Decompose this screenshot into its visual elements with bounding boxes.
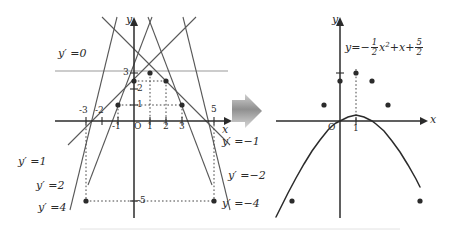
tangent-slope-4 <box>70 17 117 210</box>
point-0-2p5 <box>131 78 136 83</box>
left-y-axis-label: y <box>126 14 132 25</box>
left-ytick-3: 3 <box>123 68 129 77</box>
label-slope-two: y′ =2 <box>36 180 64 191</box>
right-x-axis-arrowhead <box>420 117 428 125</box>
left-xtick-1: 1 <box>147 122 153 131</box>
point-2-2p5 <box>163 78 168 83</box>
left-xtick-2: 2 <box>163 122 169 131</box>
tangent-lines <box>68 17 230 210</box>
rpoint-5-neg5 <box>417 198 422 203</box>
eqn-coef-den: 2 <box>371 48 378 57</box>
eqn-plus-2: + <box>405 41 414 54</box>
rpoint-2-2p5 <box>369 78 374 83</box>
left-ytick-1: 1 <box>137 100 143 109</box>
point-1-3 <box>147 70 152 75</box>
label-slope-one: y′ =1 <box>18 156 46 167</box>
eqn-const-den: 2 <box>415 48 422 57</box>
eqn-plus-1: + <box>390 41 399 54</box>
figure-canvas: x y O -3 -2 -1 1 2 3 5 3 2 1 -5 y′ =0 y′… <box>0 0 463 234</box>
right-xtick-1: 1 <box>353 124 359 133</box>
tangent-slope-neg4 <box>183 17 230 210</box>
left-xtick-neg2: -2 <box>95 106 104 115</box>
right-curve-points <box>289 70 422 203</box>
eqn-sign: − <box>360 41 369 54</box>
label-slope-four: y′ =4 <box>38 202 66 213</box>
left-xtick-3: 3 <box>179 122 185 131</box>
parabola-curve <box>276 115 420 217</box>
label-slope-zero: y′ =0 <box>58 48 86 59</box>
rpoint-1-3 <box>353 70 358 75</box>
left-xtick-neg3: -3 <box>79 106 88 115</box>
left-xtick-5: 5 <box>211 105 217 114</box>
parabola-equation: y=−12x2+x+52 <box>345 38 424 57</box>
transform-arrow <box>232 94 262 128</box>
eqn-coef-fraction: 12 <box>371 38 378 57</box>
tangent-slope-neg2 <box>148 17 212 185</box>
right-y-axis-label: y <box>332 14 338 25</box>
left-x-axis-label: x <box>222 124 228 135</box>
label-slope-neg-one: y′ =−1 <box>222 136 260 147</box>
point-5-neg5 <box>211 198 216 203</box>
left-ytick-2: 2 <box>137 84 143 93</box>
rpoint-neg3-neg5 <box>289 198 294 203</box>
point-neg1-1 <box>115 102 120 107</box>
label-slope-neg-four: y′ =−4 <box>222 198 260 209</box>
point-neg3-neg5 <box>83 198 88 203</box>
left-origin-label: O <box>134 122 141 131</box>
eqn-const-fraction: 52 <box>415 38 422 57</box>
label-slope-neg-two: y′ =−2 <box>228 170 266 181</box>
left-xtick-neg1: -1 <box>112 122 121 131</box>
right-x-axis-label: x <box>430 114 436 125</box>
left-ytick-neg5: -5 <box>137 196 146 205</box>
rpoint-3-1 <box>385 102 390 107</box>
point-3-1 <box>179 102 184 107</box>
right-origin-label: O <box>328 123 335 132</box>
left-tangency-points <box>83 70 216 203</box>
rpoint-0-2p5 <box>337 78 342 83</box>
left-dotted-guides <box>86 73 214 201</box>
rpoint-neg1-1 <box>321 102 326 107</box>
